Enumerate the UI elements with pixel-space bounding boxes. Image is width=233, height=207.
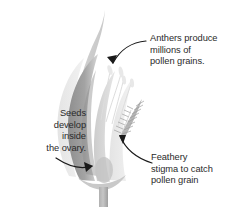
- stem: [99, 187, 108, 207]
- grass-flower-diagram: Anthers produce millions of pollen grain…: [0, 0, 233, 207]
- annotation-stigma: Feathery stigma to catch pollen grain: [151, 152, 233, 187]
- ovary: [95, 157, 113, 183]
- annotation-anthers: Anthers produce millions of pollen grain…: [150, 33, 232, 68]
- annotation-seeds: Seeds develop inside the ovary.: [10, 108, 86, 154]
